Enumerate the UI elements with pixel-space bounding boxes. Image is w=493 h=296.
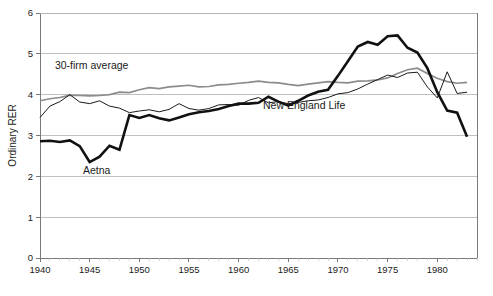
x-tick-label-1950: 1950 [129,264,150,275]
x-tick-label-1945: 1945 [79,264,100,275]
series-line-30-firm-average [40,68,467,101]
y-tick-label-0: 0 [28,252,33,263]
rer-line-chart: 0123456194019451950195519601965197019751… [0,0,493,296]
chart-container: 0123456194019451950195519601965197019751… [0,0,493,296]
y-tick-label-1: 1 [28,212,33,223]
y-tick-label-2: 2 [28,171,33,182]
y-tick-label-5: 5 [28,48,33,59]
x-tick-label-1940: 1940 [29,264,50,275]
y-tick-label-6: 6 [28,7,33,18]
x-tick-label-1970: 1970 [327,264,348,275]
series-label-aetna: Aetna [83,164,111,176]
x-tick-label-1975: 1975 [377,264,398,275]
x-tick-label-1955: 1955 [178,264,199,275]
y-tick-label-3: 3 [28,130,33,141]
x-tick-label-1960: 1960 [228,264,249,275]
x-tick-label-1965: 1965 [278,264,299,275]
series-label-30-firm-average: 30-firm average [55,59,129,71]
x-tick-label-1980: 1980 [427,264,448,275]
y-tick-label-4: 4 [28,89,33,100]
series-label-new-england-life: New England Life [263,99,345,111]
y-axis-title: Ordinary RER [7,104,18,166]
